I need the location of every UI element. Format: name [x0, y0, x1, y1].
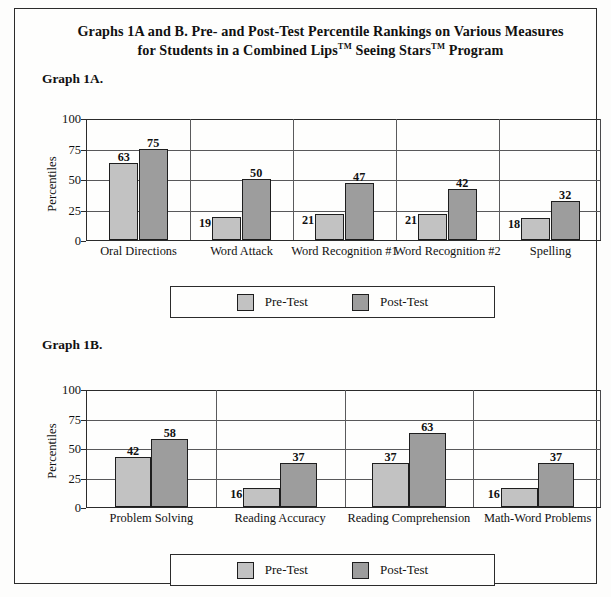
x-axis-category-label: Reading Accuracy — [235, 511, 326, 526]
bar-value-label: 32 — [559, 189, 571, 201]
bar-value-label: 42 — [456, 177, 468, 189]
y-axis-tick-label: 0 — [47, 236, 81, 246]
bar-value-label: 21 — [405, 214, 417, 226]
page-canvas: Graphs 1A and B. Pre- and Post-Test Perc… — [0, 0, 611, 597]
trademark-symbol-lips: TM — [338, 41, 352, 51]
legend-label-post-test: Post-Test — [380, 294, 428, 310]
legend-item-pre-test: Pre-Test — [237, 294, 308, 311]
bar-group: 6375Oral Directions — [87, 119, 190, 240]
bar-post-test: 58 — [151, 439, 188, 507]
legend-graph-1b: Pre-Test Post-Test — [170, 554, 495, 586]
legend-label-pre-test: Pre-Test — [265, 562, 308, 578]
bar-post-test: 42 — [448, 189, 477, 240]
bar-value-label: 18 — [508, 218, 520, 230]
legend-swatch-pre-test-icon — [237, 562, 254, 579]
bar-group: 4258Problem Solving — [87, 390, 216, 507]
x-axis-category-label: Reading Comprehension — [347, 511, 470, 526]
legend-swatch-post-test-icon — [352, 562, 369, 579]
bar-value-label: 37 — [292, 451, 304, 463]
bar-group: 1950Word Attack — [190, 119, 293, 240]
y-axis-tick-label: 100 — [47, 114, 81, 124]
bar-pre-test: 16 — [243, 488, 280, 507]
bar-group: 3763Reading Comprehension — [345, 390, 474, 507]
bar-pre-test: 37 — [372, 463, 409, 507]
y-axis-ticks: 0255075100 — [43, 119, 81, 241]
legend-item-post-test: Post-Test — [352, 294, 428, 311]
page-title: Graphs 1A and B. Pre- and Post-Test Perc… — [39, 22, 602, 60]
y-axis-ticks: 0255075100 — [43, 390, 81, 508]
bar-value-label: 47 — [353, 171, 365, 183]
y-axis-tick-label: 50 — [47, 175, 81, 185]
bar-group: 1832Spelling — [499, 119, 602, 240]
legend-graph-1a: Pre-Test Post-Test — [170, 286, 495, 318]
legend-label-post-test: Post-Test — [380, 562, 428, 578]
page-title-line-1: Graphs 1A and B. Pre- and Post-Test Perc… — [77, 23, 563, 39]
graph-1a-label: Graph 1A. — [42, 71, 103, 87]
bar-pre-test: 19 — [212, 217, 241, 240]
y-axis-tick-label: 50 — [47, 444, 81, 454]
y-axis-tick-mark — [81, 241, 86, 242]
bar-pre-test: 18 — [521, 218, 550, 240]
bar-post-test: 32 — [551, 201, 580, 240]
x-axis-category-label: Word Attack — [210, 244, 273, 259]
bar-value-label: 37 — [550, 451, 562, 463]
bar-value-label: 16 — [488, 488, 500, 500]
legend-swatch-post-test-icon — [352, 294, 369, 311]
bar-pre-test: 16 — [501, 488, 538, 507]
chart-graph-1b: Percentiles02550751004258Problem Solving… — [43, 390, 601, 535]
y-axis-tick-mark — [81, 508, 86, 509]
bar-value-label: 42 — [127, 445, 139, 457]
bar-post-test: 47 — [345, 183, 374, 240]
bar-value-label: 37 — [384, 451, 396, 463]
y-axis-tick-label: 25 — [47, 206, 81, 216]
bar-value-label: 19 — [199, 217, 211, 229]
x-axis-category-label: Math-Word Problems — [484, 511, 591, 526]
x-axis-category-label: Word Recognition #1 — [291, 244, 397, 259]
bar-post-test: 50 — [242, 179, 271, 240]
trademark-symbol-seeing-stars: TM — [431, 41, 445, 51]
bar-pre-test: 42 — [115, 457, 152, 507]
bar-value-label: 16 — [230, 488, 242, 500]
y-axis-tick-label: 25 — [47, 474, 81, 484]
y-axis-tick-label: 100 — [47, 385, 81, 395]
bar-pre-test: 63 — [109, 163, 138, 240]
bar-value-label: 63 — [118, 151, 130, 163]
bar-post-test: 75 — [139, 149, 168, 241]
bar-group: 1637Reading Accuracy — [216, 390, 345, 507]
bar-value-label: 50 — [250, 167, 262, 179]
legend-item-pre-test: Pre-Test — [237, 562, 308, 579]
y-axis-tick-label: 75 — [47, 145, 81, 155]
bar-post-test: 37 — [538, 463, 575, 507]
legend-item-post-test: Post-Test — [352, 562, 428, 579]
bar-pre-test: 21 — [418, 214, 447, 240]
bar-pre-test: 21 — [315, 214, 344, 240]
document-frame: Graphs 1A and B. Pre- and Post-Test Perc… — [14, 8, 597, 584]
plot-area: 6375Oral Directions1950Word Attack2147Wo… — [86, 119, 601, 241]
bar-group: 1637Math-Word Problems — [473, 390, 602, 507]
graph-1b-label: Graph 1B. — [42, 337, 102, 353]
x-axis-category-label: Problem Solving — [110, 511, 194, 526]
legend-swatch-pre-test-icon — [237, 294, 254, 311]
legend-label-pre-test: Pre-Test — [265, 294, 308, 310]
x-axis-category-label: Spelling — [530, 244, 571, 259]
chart-graph-1a: Percentiles02550751006375Oral Directions… — [43, 119, 601, 264]
x-axis-category-label: Word Recognition #2 — [394, 244, 500, 259]
bar-post-test: 63 — [409, 433, 446, 507]
y-axis-tick-label: 75 — [47, 415, 81, 425]
bar-group: 2147Word Recognition #1 — [293, 119, 396, 240]
bar-post-test: 37 — [280, 463, 317, 507]
plot-area: 4258Problem Solving1637Reading Accuracy3… — [86, 390, 601, 508]
bar-group: 2142Word Recognition #2 — [396, 119, 499, 240]
page-title-line-2: for Students in a Combined LipsTM Seeing… — [138, 42, 504, 58]
y-axis-tick-label: 0 — [47, 503, 81, 513]
x-axis-category-label: Oral Directions — [100, 244, 177, 259]
bar-value-label: 21 — [302, 214, 314, 226]
bar-value-label: 63 — [421, 421, 433, 433]
bar-value-label: 75 — [147, 137, 159, 149]
bar-value-label: 58 — [164, 427, 176, 439]
